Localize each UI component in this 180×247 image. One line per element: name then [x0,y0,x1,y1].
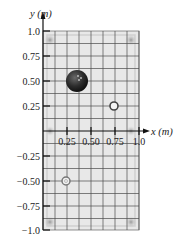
y-axis-label: y (m) [29,8,52,20]
ring-object [62,177,70,185]
x-tick-label: 0.75 [106,136,124,147]
finger-hole-icon [78,79,80,81]
y-tick-label: −0.50 [17,176,40,187]
x-axis-label: x (m) [150,126,173,138]
y-tick-label: −0.25 [17,151,40,162]
ring-object [110,102,118,110]
corner-pocket-icon [44,216,56,228]
x-tick-label: 1.0 [133,136,146,147]
corner-pocket-icon [44,34,56,46]
y-tick-label: −1.0 [22,225,40,236]
x-tick-label: 0.25 [58,136,76,147]
x-tick-label: 0.50 [82,136,100,147]
x-axis-arrow-icon [143,129,150,134]
y-tick-label: 1.0 [28,26,41,37]
y-tick-label: 0.50 [23,76,41,87]
coordinate-diagram: y (m) x (m) 1.0 0.75 0.50 0.25 −0.25 −0.… [0,0,180,247]
y-tick-label: −0.75 [17,201,40,212]
finger-hole-icon [77,75,79,77]
finger-hole-icon [80,77,82,79]
y-tick-label: 0.75 [23,51,41,62]
y-tick-label: 0.25 [23,101,41,112]
bowling-ball [66,70,88,92]
